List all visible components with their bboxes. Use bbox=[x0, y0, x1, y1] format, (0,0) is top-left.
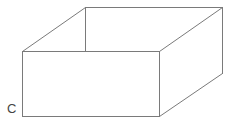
right-bottom-diagonal bbox=[160, 74, 223, 117]
open-box-diagram: C bbox=[0, 0, 234, 127]
right-top-diagonal bbox=[160, 8, 223, 52]
vertex-label-c: C bbox=[7, 102, 16, 115]
box-drawing bbox=[0, 0, 234, 127]
left-top-diagonal bbox=[23, 8, 86, 52]
